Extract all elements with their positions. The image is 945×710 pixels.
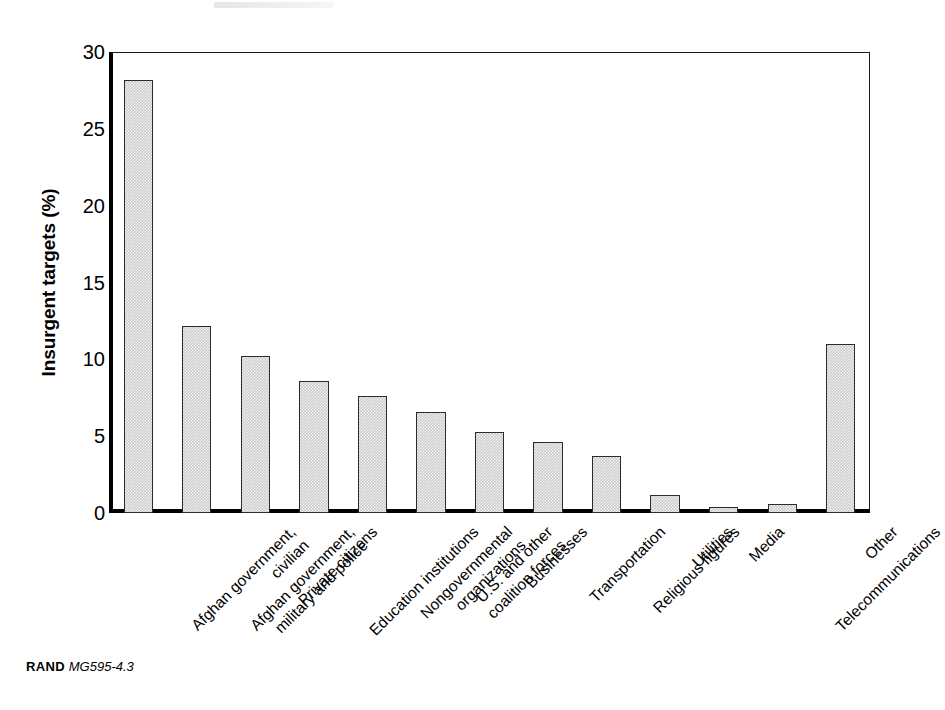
figure-source-note: RAND MG595-4.3 [26, 659, 134, 674]
figure-number: MG595-4.3 [69, 659, 134, 674]
x-tick-label-line: Media [745, 523, 788, 566]
x-tick-label: Transportation [586, 523, 670, 607]
x-tick-label-line: Transportation [586, 523, 670, 607]
x-tick-label: Media [745, 523, 788, 566]
rand-label: RAND [26, 659, 65, 674]
